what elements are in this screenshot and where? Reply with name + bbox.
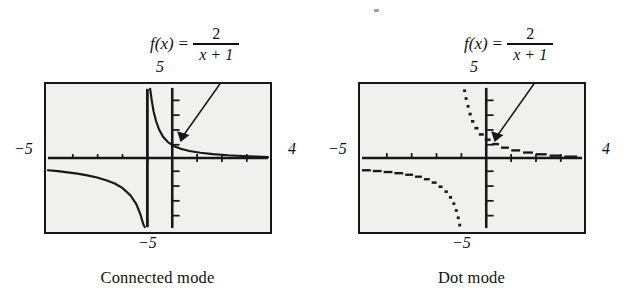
fraction: 2 x + 1 [507,26,553,63]
xmax-label: 4 [602,140,610,158]
equals-sign: = [493,34,503,54]
ymax-label: 5 [156,58,164,76]
caption-dot-mode: Dot mode [314,268,629,288]
ymin-label: −5 [138,234,157,252]
panel-dot-mode: f(x) = 2 x + 1 5 −5 4 −5 [314,0,629,301]
annotation-arrow [491,84,541,142]
function-name: f(x) [150,34,174,54]
fraction-numerator: 2 [520,26,540,43]
fraction-denominator: x + 1 [195,45,237,63]
calculator-screen-dot [358,82,586,234]
annotation-arrow [177,84,227,142]
function-name: f(x) [464,34,488,54]
fraction-denominator: x + 1 [509,45,551,63]
dots-right-branch [463,89,577,157]
x-axis [362,153,582,162]
panel-connected-mode: f(x) = 2 x + 1 5 −5 4 −5 [0,0,315,301]
ymin-label: −5 [452,234,471,252]
ymax-label: 5 [470,58,478,76]
curve-left-branch [48,170,145,227]
caption-connected-mode: Connected mode [0,268,315,288]
dots-left-branch [362,169,461,226]
fraction-numerator: 2 [206,26,226,43]
graph-dot [360,84,584,232]
calculator-screen-connected [44,82,272,234]
figure-page: f(x) = 2 x + 1 5 −5 4 −5 [0,0,629,301]
xmax-label: 4 [288,140,296,158]
fraction: 2 x + 1 [193,26,239,63]
equals-sign: = [179,34,189,54]
xmin-label: −5 [14,140,33,158]
graph-connected [46,84,270,232]
xmin-label: −5 [328,140,347,158]
